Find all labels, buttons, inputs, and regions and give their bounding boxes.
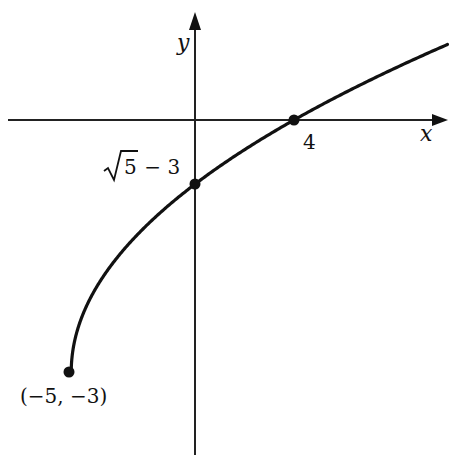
x-axis-arrow-icon [432, 114, 448, 126]
y-intercept-dot [190, 179, 201, 190]
function-graph: y x 4 5 − 3 (−5, −3) [0, 0, 454, 455]
radicand: 5 [124, 155, 137, 179]
y-axis [189, 12, 201, 455]
x-axis-label: x [420, 121, 433, 146]
curve-sqrt [71, 45, 447, 372]
x-axis [8, 114, 448, 126]
x-intercept-label: 4 [303, 130, 316, 154]
y-intercept-label: 5 − 3 [104, 151, 180, 180]
y-intercept-rest: − 3 [138, 155, 180, 179]
y-axis-arrow-icon [189, 12, 201, 30]
y-axis-label: y [176, 30, 190, 55]
endpoint-label: (−5, −3) [20, 384, 107, 408]
endpoint-dot [64, 367, 75, 378]
x-intercept-dot [289, 115, 300, 126]
